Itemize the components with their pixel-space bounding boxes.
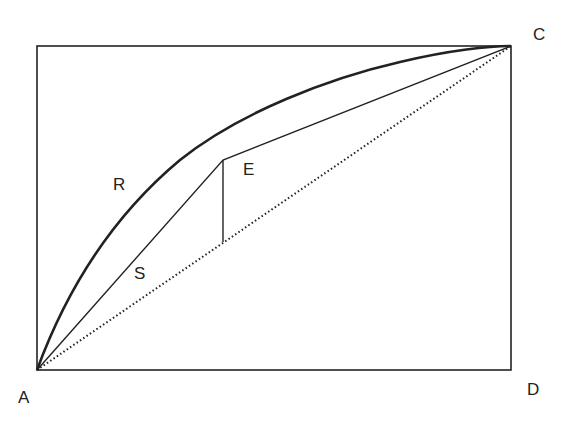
curve-label-r: R [113,176,125,193]
point-label-d: D [527,381,539,398]
point-label-c: C [533,26,545,43]
diagram-canvas [0,0,576,423]
curve-label-s: S [134,265,145,282]
point-label-e: E [243,161,254,178]
diagonal-dotted-line [37,46,511,370]
point-label-a: A [18,389,29,406]
